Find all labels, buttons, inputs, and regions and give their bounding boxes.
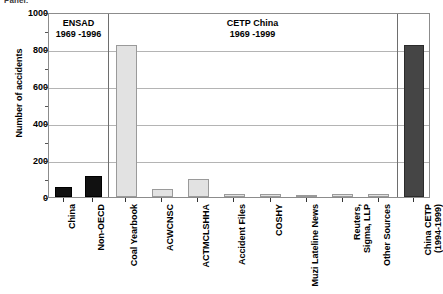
- panel-header-line1: ENSAD: [63, 18, 95, 28]
- x-tick-mark: [233, 198, 234, 202]
- x-tick-label: ACWCNSC: [165, 204, 175, 251]
- x-tick-label: Other Sources: [382, 204, 392, 266]
- x-tick-label-line1: Coal Yearbook: [129, 204, 139, 266]
- x-tick-label-line2: Sigma, LLP: [362, 204, 372, 253]
- bar: [55, 187, 72, 197]
- x-tick-label: Non-OECD: [96, 204, 106, 251]
- panel-separator-1: [108, 14, 109, 197]
- x-tick-label: COSHY: [274, 204, 284, 236]
- bar: [332, 194, 353, 197]
- x-tick-mark: [378, 198, 379, 202]
- x-tick-label-line1: China: [67, 204, 77, 229]
- x-tick-mark: [63, 198, 64, 202]
- y-tick-label: 0: [8, 193, 48, 203]
- bar: [188, 179, 209, 198]
- x-tick-mark: [125, 198, 126, 202]
- x-tick-mark: [161, 198, 162, 202]
- x-tick-label-line1: ACTMCLSHHA: [201, 204, 211, 268]
- x-tick-label-line1: China CETP: [423, 204, 433, 256]
- gridline: [49, 125, 429, 126]
- bar: [296, 195, 317, 197]
- bar: [152, 189, 173, 197]
- bar: [85, 176, 102, 197]
- y-tick-label: 200: [8, 156, 48, 166]
- panel-header-line2: 1969 -1996: [49, 29, 108, 40]
- gridline: [49, 162, 429, 163]
- panel-separator-2: [397, 14, 398, 197]
- x-tick-label: Accident Files: [237, 204, 247, 265]
- x-tick-label-line1: Other Sources: [382, 204, 392, 266]
- x-tick-mark: [342, 198, 343, 202]
- bar: [260, 194, 281, 197]
- bar: [116, 45, 137, 197]
- plot-area: ENSAD1969 -1996CETP China1969 -1999: [48, 13, 430, 198]
- x-tick-label: China CETP(1994-1999): [423, 204, 443, 256]
- x-tick-label: Reuters,Sigma, LLP: [352, 204, 372, 253]
- clipped-caption-fragment: Panel:: [4, 0, 29, 3]
- panel-header-line1: CETP China: [227, 18, 278, 28]
- x-tick-mark: [270, 198, 271, 202]
- panel-header-line2: 1969 -1999: [108, 29, 397, 40]
- panel-header-ensad: ENSAD1969 -1996: [49, 18, 108, 40]
- x-tick-label: ACTMCLSHHA: [201, 204, 211, 268]
- y-tick-label: 800: [8, 45, 48, 55]
- x-tick-label-line1: Accident Files: [237, 204, 247, 265]
- x-tick-mark: [197, 198, 198, 202]
- y-axis-ticks: 02004006008001000: [0, 13, 48, 198]
- x-tick-label-line1: ACWCNSC: [165, 204, 175, 251]
- x-tick-label: China: [67, 204, 77, 229]
- bar: [368, 194, 389, 197]
- x-tick-label-line1: COSHY: [274, 204, 284, 236]
- gridline: [49, 51, 429, 52]
- gridline: [49, 88, 429, 89]
- x-tick-mark: [92, 198, 93, 202]
- panel-header-cetp-china: CETP China1969 -1999: [108, 18, 397, 40]
- y-tick-label: 400: [8, 119, 48, 129]
- x-tick-label-line1: Muzi Lateline News: [310, 204, 320, 287]
- x-tick-label: Muzi Lateline News: [310, 204, 320, 287]
- bar: [404, 45, 424, 197]
- x-tick-mark: [306, 198, 307, 202]
- x-tick-label-line1: Non-OECD: [96, 204, 106, 251]
- x-tick-label: Coal Yearbook: [129, 204, 139, 266]
- x-tick-label-line1: Reuters,: [352, 204, 362, 240]
- x-tick-mark: [413, 198, 414, 202]
- x-tick-label-line2: (1994-1999): [433, 204, 443, 256]
- x-axis-labels: ChinaNon-OECDCoal YearbookACWCNSCACTMCLS…: [48, 198, 430, 294]
- y-tick-label: 600: [8, 82, 48, 92]
- bar: [224, 194, 245, 197]
- y-tick-label: 1000: [8, 8, 48, 18]
